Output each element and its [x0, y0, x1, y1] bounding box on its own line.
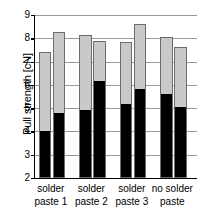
bar-lower-segment — [54, 113, 65, 177]
bar — [134, 24, 147, 178]
y-tick-label-3: 3 — [24, 150, 30, 160]
y-tick-mark-9 — [31, 15, 35, 16]
y-tick-label-9: 9 — [24, 10, 30, 20]
bar — [93, 41, 106, 178]
y-tick-label-7: 7 — [24, 57, 30, 67]
y-tick-mark-8 — [31, 38, 35, 39]
y-tick-label-2: 2 — [24, 173, 30, 183]
bar — [39, 52, 52, 178]
x-axis-label-group-4: no solderpaste — [140, 183, 203, 208]
x-axis-label-line2: paste — [140, 196, 203, 209]
y-tick-mark-2 — [31, 178, 35, 179]
pull-strength-bar-chart: Pull strength [cN] 23456789 solderpaste … — [0, 0, 203, 215]
y-tick-label-5: 5 — [24, 103, 30, 113]
bar-lower-segment — [121, 104, 132, 177]
bar-lower-segment — [135, 89, 146, 177]
bar-lower-segment — [94, 81, 105, 177]
bar — [120, 42, 133, 178]
plot-area: 23456789 — [34, 15, 197, 179]
y-tick-label-6: 6 — [24, 80, 30, 90]
bar — [53, 32, 66, 178]
y-tick-mark-4 — [31, 131, 35, 132]
y-tick-label-8: 8 — [24, 33, 30, 43]
bar — [174, 47, 187, 178]
bar — [160, 37, 173, 178]
bar — [79, 35, 92, 178]
y-tick-mark-5 — [31, 108, 35, 109]
y-tick-mark-3 — [31, 155, 35, 156]
bar-lower-segment — [175, 107, 186, 177]
x-axis-label-line1: no solder — [140, 183, 203, 196]
bar-lower-segment — [40, 131, 51, 177]
bar-lower-segment — [80, 110, 91, 177]
y-tick-mark-6 — [31, 85, 35, 86]
y-tick-label-4: 4 — [24, 126, 30, 136]
y-tick-mark-7 — [31, 62, 35, 63]
gridline-9 — [35, 15, 197, 16]
bar-lower-segment — [161, 94, 172, 177]
